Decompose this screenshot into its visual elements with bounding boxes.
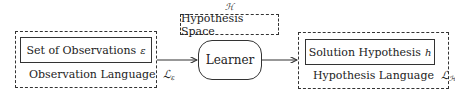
- learning-diagram: Set of Observations ε Observation Langua…: [0, 0, 455, 97]
- edges-layer: [0, 0, 455, 97]
